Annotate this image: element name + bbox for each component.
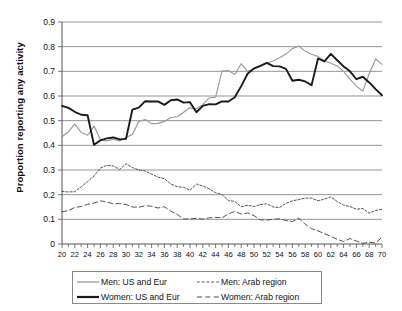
svg-text:54: 54 — [275, 250, 283, 259]
legend-label: Women: US and Eur — [101, 292, 180, 302]
svg-text:66: 66 — [352, 250, 360, 259]
svg-text:62: 62 — [327, 250, 335, 259]
svg-text:34: 34 — [147, 250, 155, 259]
gridlines — [62, 22, 382, 219]
svg-text:0.9: 0.9 — [43, 17, 55, 27]
svg-text:68: 68 — [365, 250, 373, 259]
legend-swatch-solid-black — [77, 292, 99, 302]
svg-text:44: 44 — [211, 250, 219, 259]
svg-text:52: 52 — [263, 250, 271, 259]
chart-svg: 00.10.20.30.40.50.60.70.80.9 20222426283… — [0, 0, 402, 311]
legend-swatch-dashed — [197, 292, 219, 302]
chart-legend: Men: US and Eur Men: Arab region Women: … — [72, 271, 322, 304]
svg-text:28: 28 — [109, 250, 117, 259]
chart-figure: Proportion reporting any activity 00.10.… — [0, 0, 402, 311]
svg-text:0.4: 0.4 — [43, 140, 55, 150]
svg-text:0.3: 0.3 — [43, 165, 55, 175]
legend-item-women-arab[interactable]: Women: Arab region — [197, 292, 299, 302]
svg-text:0.1: 0.1 — [43, 214, 55, 224]
plot-area: 00.10.20.30.40.50.60.70.80.9 20222426283… — [0, 0, 402, 311]
svg-text:58: 58 — [301, 250, 309, 259]
svg-text:0.5: 0.5 — [43, 116, 55, 126]
legend-row: Women: US and Eur Women: Arab region — [77, 289, 317, 304]
svg-text:0.2: 0.2 — [43, 190, 55, 200]
svg-text:38: 38 — [173, 250, 181, 259]
legend-label: Men: Arab region — [221, 277, 286, 287]
svg-text:70: 70 — [378, 250, 386, 259]
svg-text:46: 46 — [224, 250, 232, 259]
svg-text:40: 40 — [186, 250, 194, 259]
svg-text:22: 22 — [71, 250, 79, 259]
svg-text:20: 20 — [58, 250, 66, 259]
svg-text:0.7: 0.7 — [43, 66, 55, 76]
svg-text:24: 24 — [83, 250, 91, 259]
legend-swatch-dotted — [197, 277, 219, 287]
svg-text:56: 56 — [288, 250, 296, 259]
svg-text:60: 60 — [314, 250, 322, 259]
svg-text:32: 32 — [135, 250, 143, 259]
legend-item-women-us[interactable]: Women: US and Eur — [77, 292, 197, 302]
svg-text:0.8: 0.8 — [43, 42, 55, 52]
y-axis-ticks: 00.10.20.30.40.50.60.70.80.9 — [43, 17, 62, 249]
svg-text:64: 64 — [339, 250, 347, 259]
legend-item-men-arab[interactable]: Men: Arab region — [197, 277, 286, 287]
legend-item-men-us[interactable]: Men: US and Eur — [77, 277, 197, 287]
svg-text:0.6: 0.6 — [43, 91, 55, 101]
x-axis-ticks: 2022242628303234363840424446485052545658… — [58, 244, 386, 259]
svg-text:26: 26 — [96, 250, 104, 259]
legend-label: Men: US and Eur — [101, 277, 167, 287]
svg-text:50: 50 — [250, 250, 258, 259]
legend-label: Women: Arab region — [221, 292, 299, 302]
svg-text:36: 36 — [160, 250, 168, 259]
legend-swatch-solid-gray — [77, 277, 99, 287]
svg-text:0: 0 — [50, 239, 55, 249]
legend-row: Men: US and Eur Men: Arab region — [77, 274, 317, 289]
svg-text:48: 48 — [237, 250, 245, 259]
svg-text:42: 42 — [199, 250, 207, 259]
svg-text:30: 30 — [122, 250, 130, 259]
series-lines — [62, 46, 382, 243]
